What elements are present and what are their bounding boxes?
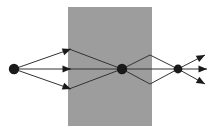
optical-medium-slab bbox=[68, 7, 152, 126]
source-point bbox=[9, 64, 19, 74]
focus-point bbox=[117, 64, 127, 74]
ray-diagram-canvas bbox=[0, 0, 215, 135]
ray-diagram-figure bbox=[0, 0, 215, 135]
second-focus-point bbox=[174, 65, 183, 74]
